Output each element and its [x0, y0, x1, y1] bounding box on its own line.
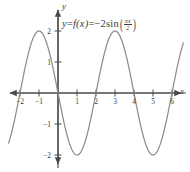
equation-coefficient: −2: [95, 18, 107, 29]
x-tick-label: 3: [107, 97, 123, 106]
x-tick-label: −2: [12, 97, 28, 106]
y-tick-label: 1: [37, 58, 51, 67]
y-tick-label: 2: [37, 27, 51, 36]
x-tick-label: 4: [126, 97, 142, 106]
equation-paren-close: ): [133, 17, 136, 33]
x-axis-label: x: [180, 86, 184, 96]
graph-figure: y=f(x)=−2sin(πx2) y x −2−112345621−1−2: [0, 0, 190, 172]
equation-paren-open: (: [120, 17, 123, 33]
x-tick-label: 1: [69, 97, 85, 106]
y-tick-label: −2: [37, 151, 51, 160]
x-tick-label: 5: [145, 97, 161, 106]
y-tick-label: −1: [37, 120, 51, 129]
equation-argument-fraction: πx2: [124, 18, 132, 32]
y-axis-label: y: [62, 1, 66, 11]
equation-label: y=f(x)=−2sin(πx2): [62, 17, 137, 33]
equation-argument-numerator: πx: [124, 18, 132, 25]
equation-sin: sin: [106, 18, 119, 29]
equation-argument-denominator: 2: [124, 25, 132, 31]
x-tick-label: 6: [164, 97, 180, 106]
x-tick-label: −1: [31, 97, 47, 106]
x-tick-label: 2: [88, 97, 104, 106]
equation-fx: f(x): [73, 18, 88, 29]
